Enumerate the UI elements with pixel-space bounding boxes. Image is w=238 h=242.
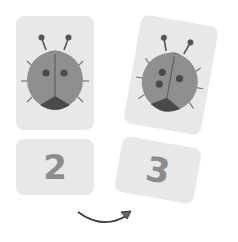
number-card-left[interactable]: 2 xyxy=(16,139,94,195)
number-label: 3 xyxy=(114,135,203,204)
ladybug-icon xyxy=(123,14,219,136)
number-card-right[interactable]: 3 xyxy=(114,135,203,204)
picture-card-left[interactable] xyxy=(16,16,94,130)
number-label: 2 xyxy=(16,139,94,195)
picture-card-right[interactable] xyxy=(123,14,219,136)
curved-arrow-right-icon xyxy=(70,200,140,234)
ladybug-icon xyxy=(16,16,94,130)
